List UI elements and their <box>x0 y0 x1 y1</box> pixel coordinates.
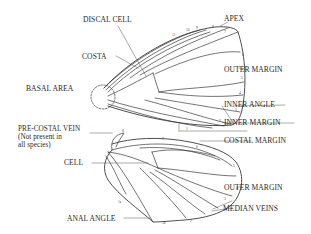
svg-text:1: 1 <box>186 127 188 131</box>
svg-text:9: 9 <box>196 26 198 30</box>
label-pre-costal-vein: PRE-COSTAL VEIN (Not present in all spec… <box>18 125 80 149</box>
label-inner-angle: INNER ANGLE <box>224 101 275 109</box>
svg-text:5: 5 <box>233 164 235 168</box>
label-inner-margin: INNER MARGIN <box>224 119 281 127</box>
pre-costal-vein-note-2: all species) <box>18 141 80 149</box>
svg-text:7: 7 <box>224 30 226 34</box>
wing-illustration: 11 10 9 8 7 6 5 4 3 2 1 8 7 6 5 4 3 2 1b… <box>0 0 311 234</box>
svg-text:5: 5 <box>241 76 243 80</box>
forewing-vein-numbers: 11 10 9 8 7 6 5 4 3 2 1 <box>172 25 244 131</box>
label-outer-margin-hindwing: OUTER MARGIN <box>224 184 283 192</box>
svg-text:3: 3 <box>224 197 226 201</box>
hindwing <box>105 133 242 222</box>
forewing <box>104 27 245 128</box>
label-costal-margin: COSTAL MARGIN <box>224 137 286 145</box>
svg-text:6: 6 <box>196 145 198 149</box>
label-costa: COSTA <box>82 53 107 61</box>
pre-costal-vein-note-1: (Not present in <box>18 133 80 141</box>
label-median-veins: MEDIAN VEINS <box>223 205 278 213</box>
svg-text:7: 7 <box>162 137 164 141</box>
svg-text:2: 2 <box>190 219 192 223</box>
svg-text:6: 6 <box>242 53 244 57</box>
svg-text:4: 4 <box>239 91 241 95</box>
svg-text:11: 11 <box>172 33 176 37</box>
label-cell: CELL <box>64 159 83 167</box>
wing-anatomy-diagram: 11 10 9 8 7 6 5 4 3 2 1 8 7 6 5 4 3 2 1b… <box>0 0 311 234</box>
label-anal-angle: ANAL ANGLE <box>67 215 116 223</box>
label-basal-area: BASAL AREA <box>26 85 73 93</box>
svg-text:10: 10 <box>186 28 190 32</box>
pre-costal-vein-title: PRE-COSTAL VEIN <box>18 125 80 133</box>
svg-text:8: 8 <box>122 129 124 133</box>
svg-text:1b: 1b <box>162 221 166 225</box>
label-apex: APEX <box>224 15 244 23</box>
svg-text:1a: 1a <box>118 200 122 204</box>
svg-text:2: 2 <box>219 119 221 123</box>
svg-text:8: 8 <box>212 25 214 29</box>
label-outer-margin-forewing: OUTER MARGIN <box>224 66 283 74</box>
label-discal-cell: DISCAL CELL <box>83 16 132 24</box>
